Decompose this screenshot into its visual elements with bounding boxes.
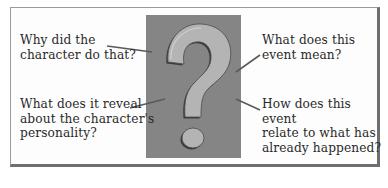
question-mark-panel: [146, 15, 241, 158]
question-top-right: What does this event mean?: [262, 33, 355, 62]
question-bottom-right: How does this event relate to what has a…: [262, 97, 388, 155]
question-top-left: Why did the character do that?: [20, 33, 136, 62]
question-bottom-left: What does it reveal about the character'…: [20, 97, 154, 141]
question-mark-icon: [146, 15, 241, 158]
